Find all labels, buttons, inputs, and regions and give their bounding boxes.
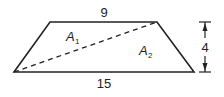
svg-text:A: A xyxy=(138,43,148,58)
top-base-label: 9 xyxy=(100,5,107,20)
bottom-base-label: 15 xyxy=(97,76,111,91)
arrow-up-icon xyxy=(203,23,208,31)
dashed-diagonal xyxy=(14,22,157,72)
region-a1-label: A 1 xyxy=(65,29,80,46)
svg-text:1: 1 xyxy=(75,37,80,46)
trapezoid-diagram: 9 15 A 1 A 2 4 xyxy=(0,0,224,97)
region-a2-label: A 2 xyxy=(138,43,153,60)
height-dimension: 4 xyxy=(199,22,211,72)
svg-text:2: 2 xyxy=(148,51,153,60)
trapezoid-outline xyxy=(14,22,194,72)
arrow-down-icon xyxy=(203,63,208,71)
svg-text:A: A xyxy=(65,29,75,44)
height-label: 4 xyxy=(201,40,208,55)
